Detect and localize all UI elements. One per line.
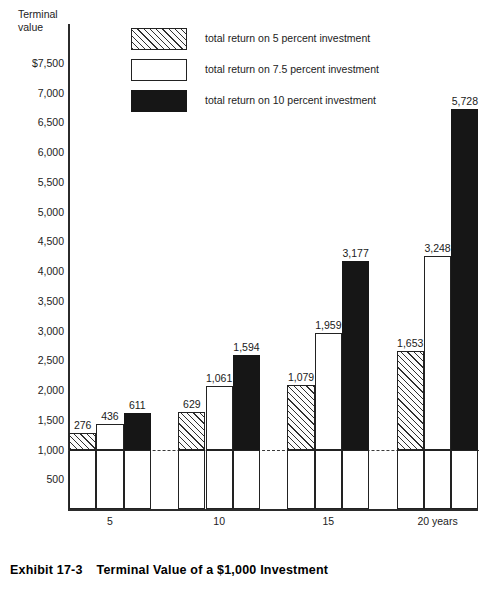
bar-segment [315, 333, 342, 449]
bar-principal-base [69, 450, 96, 509]
bar-principal-base [178, 450, 205, 509]
bar-segment [96, 424, 123, 450]
legend-swatch-white [131, 59, 187, 81]
caption-exhibit-number: Exhibit 17-3 [10, 563, 83, 577]
bar-value-label: 1,079 [288, 371, 314, 383]
bar-value-label: 3,177 [343, 247, 369, 259]
bar-segment [451, 109, 478, 450]
legend-swatch-black [131, 90, 187, 112]
bar-principal-base [96, 450, 123, 509]
bar-value-label: 1,594 [233, 341, 259, 353]
legend-swatch-hatch [131, 28, 187, 50]
bar-segment [397, 351, 424, 449]
bar-segment [124, 413, 151, 449]
bar-principal-base [397, 450, 424, 509]
exhibit-caption: Exhibit 17-3Terminal Value of a $1,000 I… [10, 563, 328, 577]
bar-segment [424, 256, 451, 449]
bar-value-label: 1,061 [206, 372, 232, 384]
plot-area: 2764366116291,0611,5941,0791,9593,1771,6… [0, 0, 491, 591]
bar-segment [178, 412, 205, 449]
bar-principal-base [424, 450, 451, 509]
legend-label: total return on 7.5 percent investment [205, 63, 379, 75]
bar-value-label: 629 [183, 398, 201, 410]
bar-segment [233, 355, 260, 450]
caption-title: Terminal Value of a $1,000 Investment [97, 563, 329, 577]
bar-value-label: 5,728 [452, 95, 478, 107]
bar-value-label: 3,248 [424, 242, 450, 254]
chart-root: Terminal value $7,5007,0006,5006,0005,50… [0, 0, 491, 591]
bar-value-label: 1,959 [315, 319, 341, 331]
bar-value-label: 1,653 [397, 337, 423, 349]
bar-principal-base [451, 450, 478, 509]
bar-value-label: 276 [74, 419, 92, 431]
bar-principal-base [287, 450, 314, 509]
bar-principal-base [315, 450, 342, 509]
legend-label: total return on 5 percent investment [205, 32, 370, 44]
bar-segment [69, 433, 96, 449]
bar-principal-base [206, 450, 233, 509]
bar-segment [287, 385, 314, 449]
bar-segment [206, 386, 233, 449]
bar-principal-base [124, 450, 151, 509]
bar-segment [342, 261, 369, 450]
bar-value-label: 611 [129, 399, 146, 411]
bar-principal-base [233, 450, 260, 509]
legend-label: total return on 10 percent investment [205, 94, 376, 106]
bar-value-label: 436 [101, 410, 119, 422]
bar-principal-base [342, 450, 369, 509]
